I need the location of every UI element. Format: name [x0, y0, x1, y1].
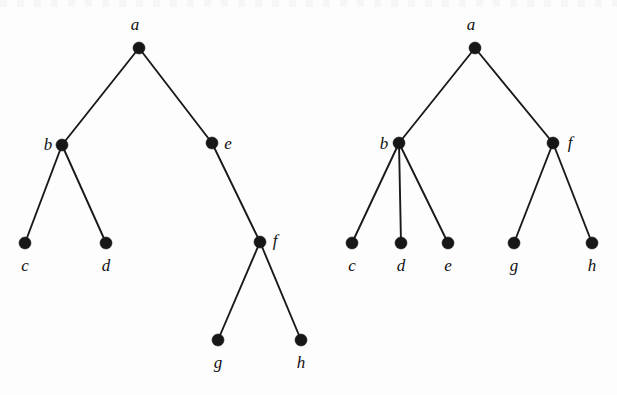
tree-edge-a-e — [139, 48, 212, 143]
tree-node-label-h: h — [588, 256, 597, 275]
tree-node-b[interactable] — [393, 137, 405, 149]
tree-node-label-d: d — [397, 256, 406, 275]
tree-node-label-d: d — [102, 256, 111, 275]
tree-node-label-f: f — [273, 231, 280, 250]
tree-node-label-g: g — [214, 353, 223, 372]
tree-node-d[interactable] — [395, 237, 407, 249]
tree-node-e[interactable] — [206, 137, 218, 149]
tree-edge-b-e — [399, 143, 448, 243]
tree-node-label-f: f — [568, 133, 575, 152]
tree-node-c[interactable] — [19, 237, 31, 249]
tree-node-a[interactable] — [469, 42, 481, 54]
tree-edge-b-d — [399, 143, 401, 243]
left-tree-labels: abecdfgh — [21, 15, 305, 372]
left-tree-edges — [25, 48, 301, 340]
tree-node-h[interactable] — [295, 334, 307, 346]
tree-edge-f-h — [553, 143, 592, 243]
tree-node-label-c: c — [348, 256, 356, 275]
tree-edge-b-d — [62, 145, 106, 243]
figure-root: abecdfghabfcdegh — [0, 0, 617, 395]
tree-edge-f-g — [218, 242, 260, 340]
tree-node-f[interactable] — [254, 236, 266, 248]
tree-node-label-b: b — [380, 134, 389, 153]
tree-edge-e-f — [212, 143, 260, 242]
edges-layer — [25, 48, 592, 340]
tree-node-c[interactable] — [346, 237, 358, 249]
tree-node-b[interactable] — [56, 139, 68, 151]
tree-node-label-a: a — [467, 15, 476, 34]
tree-node-label-h: h — [297, 353, 306, 372]
tree-node-label-e: e — [224, 134, 232, 153]
right-tree-labels: abfcdegh — [348, 15, 596, 275]
tree-edge-f-h — [260, 242, 301, 340]
tree-node-a[interactable] — [133, 42, 145, 54]
tree-node-label-a: a — [131, 15, 140, 34]
labels-layer: abecdfghabfcdegh — [21, 15, 596, 372]
tree-edge-a-b — [62, 48, 139, 145]
tree-node-label-e: e — [444, 256, 452, 275]
tree-node-label-g: g — [510, 256, 519, 275]
tree-edge-a-f — [475, 48, 553, 143]
tree-node-label-b: b — [44, 135, 53, 154]
tree-node-label-c: c — [21, 256, 29, 275]
tree-edge-b-c — [25, 145, 62, 243]
left-tree-nodes — [19, 42, 307, 346]
tree-node-f[interactable] — [547, 137, 559, 149]
tree-edge-f-g — [514, 143, 553, 243]
tree-edge-b-c — [352, 143, 399, 243]
tree-node-d[interactable] — [100, 237, 112, 249]
tree-node-e[interactable] — [442, 237, 454, 249]
tree-node-g[interactable] — [508, 237, 520, 249]
tree-diagram-canvas: abecdfghabfcdegh — [0, 0, 617, 395]
tree-node-h[interactable] — [586, 237, 598, 249]
tree-edge-a-b — [399, 48, 475, 143]
nodes-layer — [19, 42, 598, 346]
tree-node-g[interactable] — [212, 334, 224, 346]
